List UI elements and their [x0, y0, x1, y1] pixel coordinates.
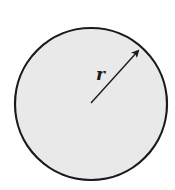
radius-label: r — [96, 64, 106, 84]
circle-diagram: r — [0, 0, 175, 190]
circle-shape — [15, 28, 167, 180]
